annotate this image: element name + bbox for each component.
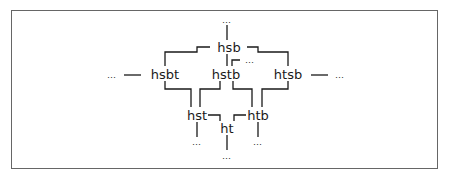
edge-hsbt-hst	[165, 81, 191, 107]
node-hst: hst	[186, 109, 208, 122]
edge-hsb-hsbt	[165, 47, 210, 66]
ellipsis-htb-below: …	[253, 138, 263, 147]
edge-htb-ht	[234, 115, 246, 121]
edge-hstb-dots	[232, 60, 240, 66]
node-htb: htb	[246, 109, 270, 122]
ellipsis-left: …	[107, 71, 117, 80]
ellipsis-top: …	[222, 16, 232, 25]
ellipsis-hstb-side: …	[245, 56, 255, 65]
node-hsbt: hsbt	[150, 68, 180, 81]
node-hsb: hsb	[216, 41, 241, 54]
edge-htsb-htb	[262, 81, 288, 107]
edge-hst-ht	[208, 115, 220, 121]
edge-hstb-hst	[200, 81, 220, 107]
node-ht: ht	[219, 122, 234, 135]
node-hstb: hstb	[211, 68, 241, 81]
edge-hstb-htb	[233, 81, 252, 107]
ellipsis-hst-below: …	[192, 138, 202, 147]
ellipsis-ht-below: …	[222, 152, 232, 161]
node-htsb: htsb	[273, 68, 303, 81]
ellipsis-right: …	[335, 71, 345, 80]
